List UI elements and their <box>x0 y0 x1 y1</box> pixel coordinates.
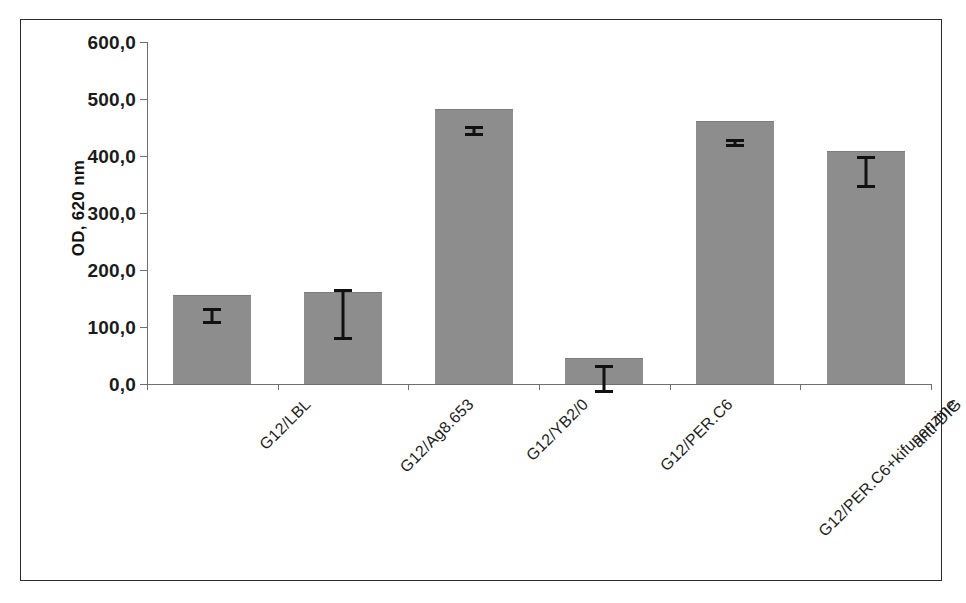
error-bar-stem <box>603 365 606 393</box>
bar-group <box>800 42 931 384</box>
y-axis-tick-label: 400,0 <box>87 147 136 166</box>
error-bar-cap-top <box>334 289 352 292</box>
y-axis-tick-label: 200,0 <box>87 261 136 280</box>
error-bar-cap-bottom <box>857 185 875 188</box>
x-axis-tick-mark <box>408 384 409 390</box>
bar-group <box>278 42 409 384</box>
y-axis-tick-label: 500,0 <box>87 90 136 109</box>
x-axis-tick-mark <box>931 384 932 390</box>
error-bar-cap-bottom <box>726 144 744 147</box>
y-axis-tick-mark <box>140 384 147 385</box>
chart-page: OD, 620 nm 600,0500,0400,0300,0200,0100,… <box>0 0 966 603</box>
plot-area <box>147 42 931 384</box>
x-axis-category-label: G12/PER.C6 <box>658 396 736 474</box>
bar-group <box>147 42 278 384</box>
y-axis-tick-label: 600,0 <box>87 33 136 52</box>
error-bar-cap-bottom <box>203 321 221 324</box>
error-bar <box>203 308 221 325</box>
x-axis-category-label: G12/LBL <box>257 396 314 453</box>
x-axis-tick-mark <box>539 384 540 390</box>
y-axis-tick-label: 0,0 <box>109 375 136 394</box>
error-bar <box>857 156 875 188</box>
y-axis-tick-mark <box>140 213 147 214</box>
error-bar-cap-top <box>203 308 221 311</box>
bar <box>696 121 774 384</box>
x-axis-tick-mark <box>147 384 148 390</box>
error-bar <box>726 139 744 146</box>
error-bar-cap-bottom <box>595 390 613 393</box>
error-bar-cap-top <box>857 156 875 159</box>
y-axis-tick-mark <box>140 270 147 271</box>
error-bar <box>334 289 352 340</box>
y-axis-tick-mark <box>140 156 147 157</box>
y-axis-tick-mark <box>140 99 147 100</box>
y-axis-tick-labels: 600,0500,0400,0300,0200,0100,00,0 <box>43 20 136 582</box>
bar-group <box>408 42 539 384</box>
error-bar-cap-top <box>465 126 483 129</box>
y-axis-tick-label: 100,0 <box>87 318 136 337</box>
error-bar <box>465 126 483 136</box>
y-axis-tick-label: 300,0 <box>87 204 136 223</box>
bar <box>435 109 513 384</box>
error-bar-cap-bottom <box>465 133 483 136</box>
bar-group <box>670 42 801 384</box>
y-axis-tick-mark <box>140 327 147 328</box>
y-axis-tick-mark <box>140 42 147 43</box>
x-axis-tick-mark <box>278 384 279 390</box>
bar-group <box>539 42 670 384</box>
error-bar-cap-top <box>726 139 744 142</box>
error-bar-stem <box>864 156 867 188</box>
x-axis-category-label: G12/Ag8.653 <box>397 396 477 476</box>
x-axis-tick-mark <box>800 384 801 390</box>
error-bar-cap-bottom <box>334 337 352 340</box>
x-axis-tick-mark <box>670 384 671 390</box>
error-bar-stem <box>341 289 344 340</box>
error-bar <box>595 365 613 393</box>
x-axis-category-label: G12/YB2/0 <box>523 396 591 464</box>
figure-frame: OD, 620 nm 600,0500,0400,0300,0200,0100,… <box>20 19 942 581</box>
error-bar-cap-top <box>595 365 613 368</box>
